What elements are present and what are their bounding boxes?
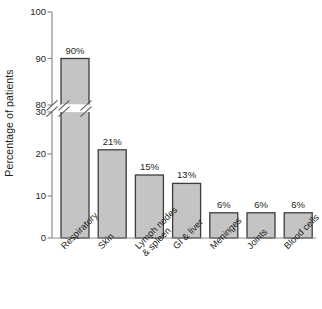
bar-value-label: 15% [140, 162, 159, 172]
bar[interactable] [98, 150, 126, 238]
bar-value-label: 13% [177, 170, 196, 180]
bar-value-label: 6% [291, 200, 305, 210]
bar-value-label: 21% [103, 137, 122, 147]
plot-area [0, 0, 322, 309]
bar-chart-figure: Percentage of patients 01020308090100 90… [0, 0, 322, 309]
bar-value-label: 90% [65, 46, 84, 56]
bar-value-label: 6% [254, 200, 268, 210]
bar-value-label: 6% [217, 200, 231, 210]
bars-group [61, 59, 312, 239]
bar[interactable] [61, 59, 89, 239]
